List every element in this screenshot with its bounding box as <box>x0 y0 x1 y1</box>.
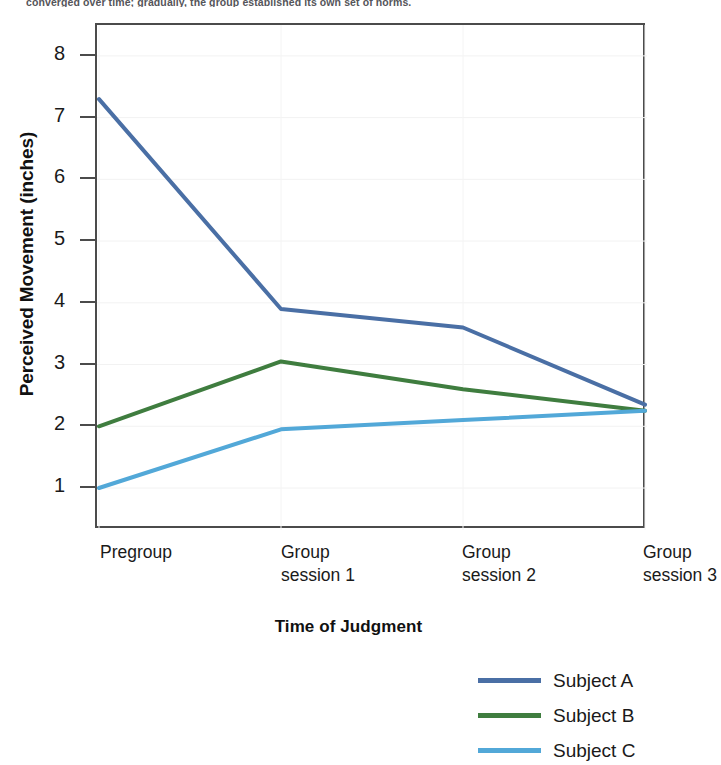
y-tick-label: 8 <box>35 43 65 63</box>
chart-lines-svg <box>97 25 647 530</box>
legend-label: Subject B <box>553 706 634 725</box>
legend-color-swatch <box>478 678 541 683</box>
y-tick-label: 2 <box>35 413 65 433</box>
chart-plot-area <box>95 23 645 528</box>
x-tick-label-line: Group <box>281 541 431 564</box>
x-tick-label-line: Pregroup <box>100 541 250 564</box>
y-tick-mark <box>80 424 95 426</box>
x-tick-label-line: session 3 <box>643 564 721 587</box>
legend-item[interactable]: Subject A <box>478 663 635 698</box>
x-tick-label: Groupsession 1 <box>281 541 431 587</box>
y-tick-label: 6 <box>35 166 65 186</box>
y-tick-label: 5 <box>35 228 65 248</box>
x-tick-label-line: session 1 <box>281 564 431 587</box>
caption-line-text: converged over time; gradually, the grou… <box>26 0 666 7</box>
x-tick-label-line: session 2 <box>462 564 612 587</box>
x-tick-label-line: Group <box>462 541 612 564</box>
x-tick-label: Pregroup <box>100 541 250 564</box>
x-tick-label: Groupsession 2 <box>462 541 612 587</box>
legend-label: Subject C <box>553 741 635 760</box>
y-tick-mark <box>80 177 95 179</box>
series-line-subject-c <box>99 411 645 488</box>
chart-legend: Subject ASubject BSubject C <box>478 663 635 765</box>
x-axis-title: Time of Judgment <box>0 617 697 637</box>
x-tick-label: Groupsession 3 <box>643 541 721 587</box>
y-tick-label: 3 <box>35 352 65 372</box>
y-tick-label: 7 <box>35 105 65 125</box>
y-tick-label: 4 <box>35 290 65 310</box>
legend-item[interactable]: Subject C <box>478 733 635 765</box>
y-tick-label: 1 <box>35 475 65 495</box>
legend-item[interactable]: Subject B <box>478 698 635 733</box>
y-tick-mark <box>80 301 95 303</box>
x-tick-label-line: Group <box>643 541 721 564</box>
legend-color-swatch <box>478 713 541 718</box>
y-tick-mark <box>80 486 95 488</box>
legend-label: Subject A <box>553 671 633 690</box>
y-tick-mark <box>80 239 95 241</box>
series-line-subject-a <box>99 99 645 405</box>
legend-color-swatch <box>478 748 541 753</box>
y-tick-mark <box>80 116 95 118</box>
y-tick-mark <box>80 363 95 365</box>
y-tick-mark <box>80 54 95 56</box>
